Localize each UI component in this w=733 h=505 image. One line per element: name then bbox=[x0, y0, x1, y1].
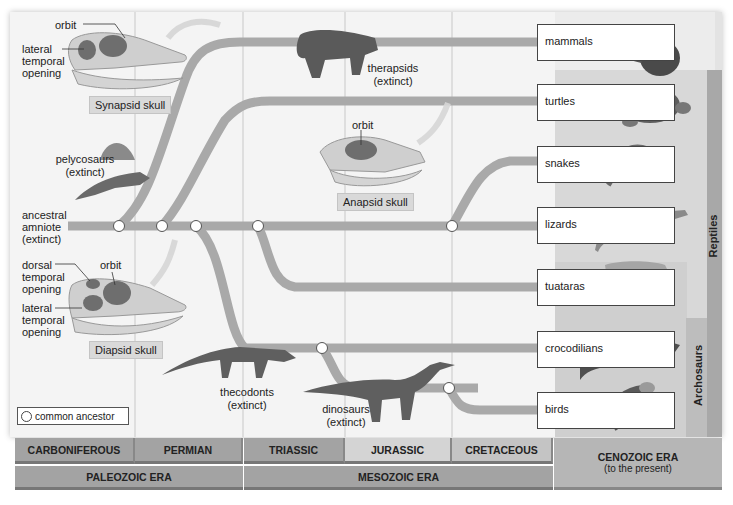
period-jurassic: JURASSIC bbox=[345, 438, 452, 464]
diapsid-skull-label: Diapsid skull bbox=[89, 341, 163, 359]
node-diapsid bbox=[191, 221, 202, 232]
synapsid-orbit-label: orbit bbox=[55, 19, 76, 32]
diapsid-dorsal-label-2: temporal bbox=[22, 271, 65, 284]
node-bird bbox=[444, 383, 455, 394]
diapsid-dorsal-label-3: opening bbox=[22, 283, 61, 296]
taxon-snakes: snakes bbox=[537, 146, 675, 183]
dinosaurs-status: (extinct) bbox=[311, 416, 381, 429]
diapsid-dorsal-label-1: dorsal bbox=[22, 259, 52, 272]
taxon-lizards: lizards bbox=[537, 207, 675, 244]
ancestral-amniote-label-1: ancestral bbox=[22, 209, 67, 222]
pelycosaurs-status: (extinct) bbox=[50, 166, 120, 179]
legend: common ancestor bbox=[17, 407, 129, 425]
taxon-crocodilians: crocodilians bbox=[537, 331, 675, 368]
thecodonts-label: thecodonts (extinct) bbox=[212, 386, 282, 411]
reptiles-clade-label: Reptiles bbox=[707, 211, 719, 261]
common-ancestor-legend-icon bbox=[21, 411, 32, 422]
diapsid-orbit-label: orbit bbox=[100, 259, 121, 272]
taxon-birds: birds bbox=[537, 392, 675, 429]
dinosaurs-name: dinosaurs bbox=[311, 403, 381, 416]
dinosaurs-label: dinosaurs (extinct) bbox=[311, 403, 381, 428]
legend-label: common ancestor bbox=[35, 411, 114, 422]
ancestral-amniote-label-2: amniote bbox=[22, 221, 61, 234]
diapsid-lateral-label-1: lateral bbox=[22, 302, 52, 315]
taxon-label: turtles bbox=[545, 95, 575, 107]
taxon-label: birds bbox=[545, 403, 569, 415]
taxon-turtles: turtles bbox=[537, 84, 675, 121]
anapsid-skull-icon bbox=[320, 137, 425, 186]
anapsid-orbit-label: orbit bbox=[352, 119, 373, 132]
therapsids-label: therapsids (extinct) bbox=[358, 62, 428, 87]
taxon-label: lizards bbox=[545, 218, 577, 230]
synapsid-lateral-label-2: temporal bbox=[22, 55, 65, 68]
taxon-mammals: mammals bbox=[537, 24, 675, 61]
period-permian: PERMIAN bbox=[135, 438, 243, 464]
ancestral-amniote-label-3: (extinct) bbox=[22, 233, 61, 246]
synapsid-lateral-label-3: opening bbox=[22, 67, 61, 80]
taxon-tuataras: tuataras bbox=[537, 269, 675, 306]
taxon-label: mammals bbox=[545, 35, 593, 47]
synapsid-skull-icon bbox=[68, 33, 186, 89]
diapsid-lateral-label-2: temporal bbox=[22, 314, 65, 327]
taxon-label: tuataras bbox=[545, 280, 585, 292]
branch-snakes bbox=[452, 161, 548, 226]
diapsid-lateral-label-3: opening bbox=[22, 326, 61, 339]
node-archosaur bbox=[317, 343, 328, 354]
node-synapsid-split bbox=[157, 221, 168, 232]
period-cretaceous: CRETACEOUS bbox=[452, 438, 553, 464]
era-cenozoic: CENOZOIC ERA (to the present) bbox=[554, 438, 722, 490]
amniote-phylogeny-diagram: orbit lateral temporal opening Synapsid … bbox=[0, 0, 733, 505]
period-triassic: TRIASSIC bbox=[244, 438, 345, 464]
thecodonts-name: thecodonts bbox=[212, 386, 282, 399]
synapsid-lateral-label-1: lateral bbox=[22, 43, 52, 56]
era-paleozoic: PALEOZOIC ERA bbox=[15, 466, 243, 490]
node-lepidosaur bbox=[253, 221, 264, 232]
diapsid-skull-icon bbox=[69, 279, 186, 335]
cenozoic-subtitle: (to the present) bbox=[604, 463, 672, 474]
thecodont-icon bbox=[162, 347, 296, 378]
taxon-label: crocodilians bbox=[545, 342, 603, 354]
anapsid-skull-label: Anapsid skull bbox=[337, 193, 414, 211]
period-carboniferous: CARBONIFEROUS bbox=[15, 438, 135, 464]
era-mesozoic: MESOZOIC ERA bbox=[244, 466, 553, 490]
pelycosaurs-label: pelycosaurs (extinct) bbox=[50, 153, 120, 178]
archosaurs-clade-label: Archosaurs bbox=[692, 346, 704, 406]
node-amniote bbox=[114, 221, 125, 232]
pelycosaurs-name: pelycosaurs bbox=[50, 153, 120, 166]
synapsid-skull-label: Synapsid skull bbox=[89, 96, 171, 114]
thecodonts-status: (extinct) bbox=[212, 399, 282, 412]
cenozoic-title: CENOZOIC ERA bbox=[598, 451, 679, 463]
branch-tuataras bbox=[258, 226, 548, 287]
therapsids-name: therapsids bbox=[358, 62, 428, 75]
node-squamate bbox=[447, 221, 458, 232]
therapsids-status: (extinct) bbox=[358, 75, 428, 88]
taxon-label: snakes bbox=[545, 157, 580, 169]
